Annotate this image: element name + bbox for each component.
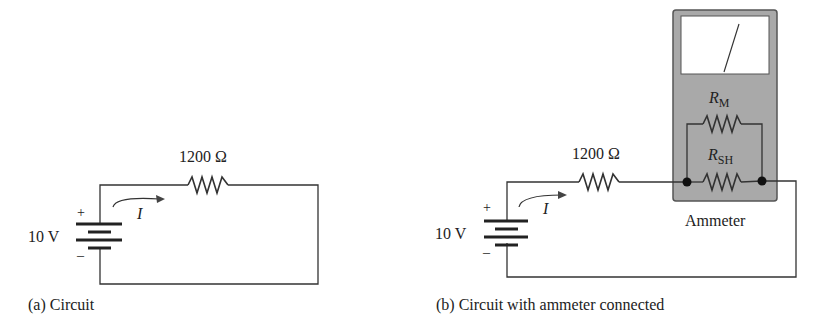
minus-b-label: – — [483, 245, 490, 261]
plus-a-label: + — [77, 205, 85, 221]
resistor-a-label: 1200 Ω — [179, 148, 227, 166]
plus-b-label: + — [483, 200, 491, 216]
current-arrow-b-icon — [519, 195, 562, 207]
resistor-a-icon — [188, 177, 228, 193]
voltage-a-label: 10 V — [28, 228, 59, 246]
shunt-resistor-label: RSH — [708, 146, 733, 168]
meter-dial — [681, 16, 769, 74]
voltage-b-label: 10 V — [435, 225, 466, 243]
meter-resistor-label: RM — [709, 89, 729, 111]
resistor-b-label: 1200 Ω — [572, 145, 620, 163]
battery-b-icon — [484, 221, 528, 245]
circuit-a-wires — [100, 177, 318, 284]
node-right-icon — [758, 177, 767, 186]
battery-a-icon — [76, 224, 122, 248]
resistor-b-icon — [579, 174, 619, 190]
current-a-label: I — [137, 205, 142, 223]
ammeter-label: Ammeter — [685, 212, 745, 230]
caption-a: (a) Circuit — [28, 296, 94, 314]
minus-a-label: – — [77, 248, 84, 264]
current-b-label: I — [543, 200, 548, 218]
circuit-diagram — [0, 0, 822, 332]
caption-b: (b) Circuit with ammeter connected — [436, 296, 664, 314]
node-left-icon — [683, 178, 692, 187]
